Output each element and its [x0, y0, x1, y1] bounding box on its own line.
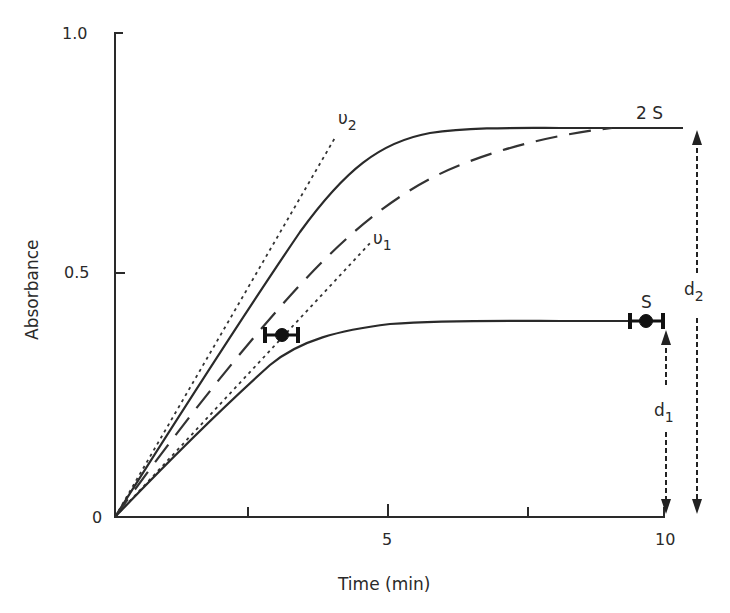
- axes: [115, 33, 665, 517]
- tangent-v1-line: [115, 241, 372, 517]
- annotation-d2: d2: [684, 279, 704, 304]
- absorbance-chart: [0, 0, 730, 613]
- annotation-d1: d1: [654, 400, 674, 425]
- annotation-d2-base: d: [684, 279, 695, 299]
- annotation-v1-sub: 1: [383, 237, 392, 253]
- x-tick-label-10: 10: [655, 530, 675, 549]
- data-point-marker-1: [265, 327, 298, 343]
- axis-lines: [115, 33, 665, 517]
- annotation-v2: υ2: [338, 108, 357, 133]
- tangent-v2-line: [115, 136, 336, 517]
- annotation-S: S: [641, 292, 652, 312]
- annotation-v1-base: υ: [373, 228, 383, 248]
- x-axis-title: Time (min): [338, 574, 430, 594]
- y-tick-label-1.0: 1.0: [62, 24, 87, 43]
- curve-S: [115, 321, 660, 517]
- annotation-v2-base: υ: [338, 108, 348, 128]
- y-tick-label-0.5: 0.5: [64, 263, 89, 282]
- annotation-2S: 2 S: [636, 103, 663, 123]
- x-tick-label-5: 5: [382, 530, 392, 549]
- annotation-d1-base: d: [654, 400, 665, 420]
- curve-dashed: [115, 128, 612, 517]
- annotation-v1: υ1: [373, 228, 392, 253]
- annotation-d1-sub: 1: [665, 409, 674, 425]
- data-point-marker-S: [630, 313, 663, 329]
- y-tick-label-0: 0: [92, 508, 102, 527]
- annotation-d2-sub: 2: [695, 288, 704, 304]
- y-axis-title: Absorbance: [22, 240, 42, 340]
- d2-arrow: [692, 130, 702, 514]
- annotation-v2-sub: 2: [348, 117, 357, 133]
